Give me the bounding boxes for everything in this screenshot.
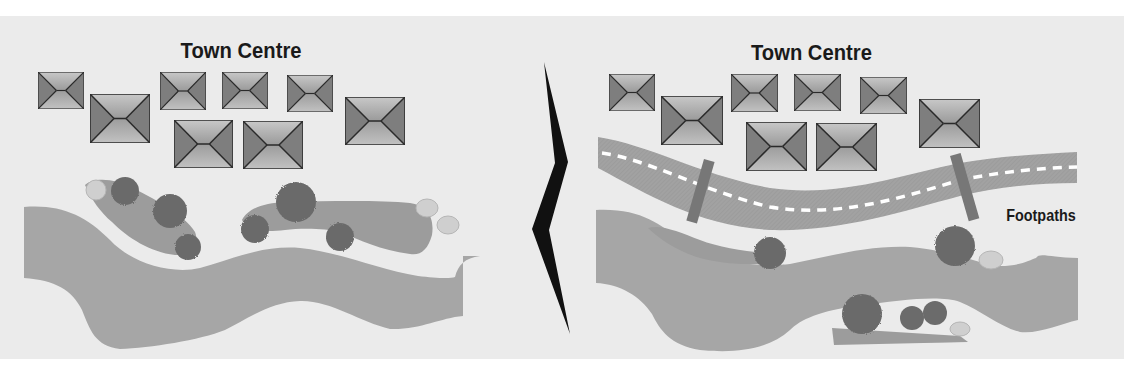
left-buildings xyxy=(38,72,405,169)
tree-icon xyxy=(276,182,316,222)
tree-icon xyxy=(241,215,269,243)
building-icon xyxy=(174,120,233,168)
tree-icon xyxy=(754,237,786,269)
building-icon xyxy=(746,122,807,171)
tree-icon xyxy=(923,301,947,325)
shrub-icon xyxy=(86,180,106,200)
tree-icon xyxy=(111,177,139,205)
building-icon xyxy=(160,72,206,110)
right-panel: Town Centre Footpaths xyxy=(596,40,1078,351)
shrub-icon xyxy=(950,322,970,336)
chevron-right-icon xyxy=(532,62,570,334)
tree-icon xyxy=(900,306,924,330)
tree-icon xyxy=(175,234,201,260)
building-icon xyxy=(345,97,405,145)
left-panel: Town Centre xyxy=(24,38,480,349)
building-icon xyxy=(38,72,84,109)
tree-icon xyxy=(842,294,882,334)
building-icon xyxy=(919,99,980,148)
building-icon xyxy=(731,74,778,112)
right-title: Town Centre xyxy=(751,40,872,64)
building-icon xyxy=(860,77,907,114)
building-icon xyxy=(243,121,303,169)
building-icon xyxy=(287,75,333,112)
tree-icon xyxy=(326,223,354,251)
shrub-icon xyxy=(416,199,438,217)
tree-icon xyxy=(153,194,187,228)
building-icon xyxy=(816,123,877,171)
tree-icon xyxy=(935,226,975,266)
shrub-icon xyxy=(979,251,1003,269)
shrub-icon xyxy=(437,216,459,234)
building-icon xyxy=(222,72,268,109)
site-plan-diagram: Town Centre xyxy=(0,0,1124,368)
building-icon xyxy=(661,96,723,145)
building-icon xyxy=(90,94,150,143)
building-icon xyxy=(609,74,655,111)
building-icon xyxy=(794,74,841,111)
left-title: Town Centre xyxy=(181,38,302,62)
footpaths-callout: Footpaths xyxy=(1006,206,1076,224)
